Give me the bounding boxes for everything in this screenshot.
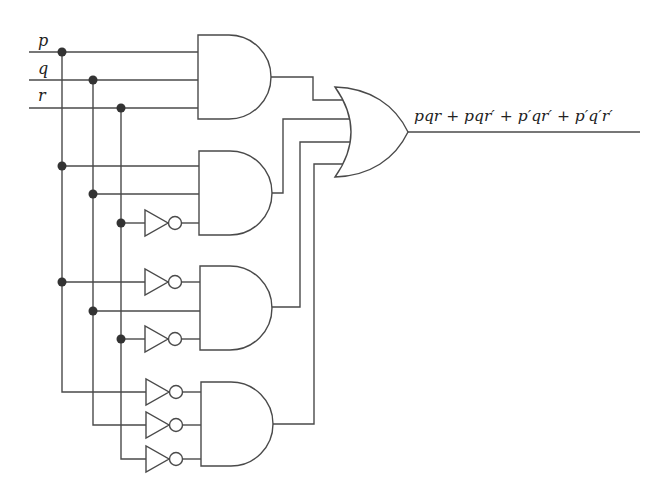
not-gate-q-and4 [146, 412, 183, 438]
wire-q-vertical [93, 80, 146, 425]
not-gate-r-and2 [145, 210, 182, 236]
and-gate-4 [201, 382, 273, 466]
logic-circuit-diagram: p q r [0, 0, 663, 494]
not-gate-r-and3 [145, 326, 182, 352]
and4-input-wires [182, 392, 201, 459]
input-label-q: q [38, 59, 48, 78]
or-gate [335, 87, 408, 177]
wire-r-vertical [121, 108, 146, 459]
and2-input-wires [62, 166, 199, 223]
not-gate-r-and4 [146, 446, 183, 472]
output-expression: pqr + pqr′ + p′qr′ + p′q′r′ [414, 107, 613, 125]
input-label-r: r [38, 86, 47, 105]
and-gate-3 [200, 266, 272, 350]
junction-dots [58, 48, 126, 344]
not-gate-p-and3 [145, 269, 182, 295]
not-gate-p-and4 [146, 379, 183, 405]
and4-output-wire [272, 164, 350, 424]
wire-p-vertical [62, 52, 146, 392]
and3-input-wires [62, 282, 200, 339]
and-to-or-wires [271, 77, 355, 424]
and2-output-wire [271, 119, 355, 193]
and-gate-1 [198, 35, 271, 119]
input-label-p: p [38, 31, 48, 50]
and-gate-2 [199, 151, 272, 235]
